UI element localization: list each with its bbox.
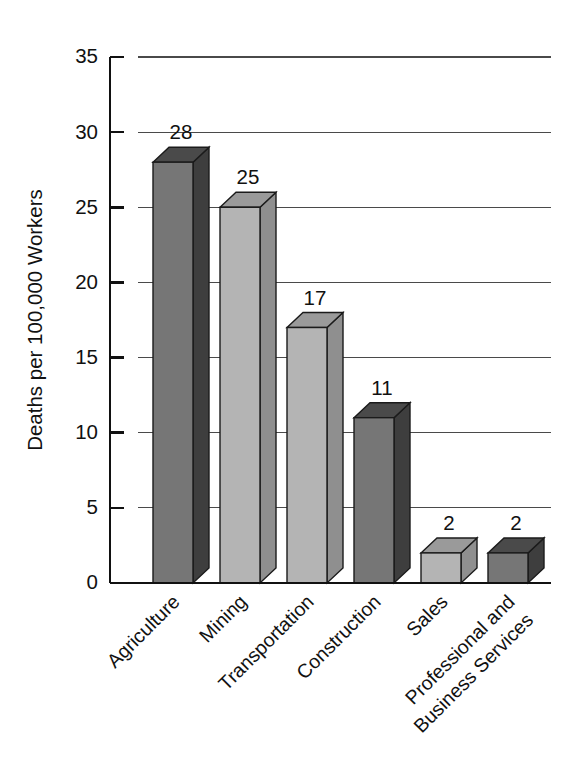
bar-3 — [287, 313, 343, 583]
bar-side-face — [394, 403, 410, 583]
y-axis-tick-label: 5 — [87, 495, 98, 518]
bar-value-label: 28 — [170, 120, 193, 143]
chart-figure: 05101520253035 2825171122 AgricultureMin… — [0, 0, 585, 781]
bar-front-face — [421, 553, 461, 583]
bar-front-face — [153, 162, 193, 583]
bar-side-face — [327, 313, 343, 583]
y-axis-title-text: Deaths per 100,000 Workers — [23, 189, 46, 451]
bar-value-label: 11 — [371, 376, 392, 399]
bar-4 — [354, 403, 410, 583]
bar-6 — [488, 538, 544, 583]
bar-5 — [421, 538, 477, 583]
y-axis-tick-label: 30 — [75, 120, 98, 143]
bar-front-face — [488, 553, 528, 583]
y-axis-tick-label: 15 — [75, 345, 98, 368]
y-axis-tick-label: 35 — [75, 44, 98, 67]
y-axis-title: Deaths per 100,000 Workers — [23, 189, 46, 451]
bar-value-label: 17 — [304, 286, 327, 309]
y-axis-tick-label: 0 — [87, 570, 98, 593]
bar-value-label: 25 — [237, 165, 260, 188]
y-axis-tick-label: 10 — [75, 420, 98, 443]
bar-side-face — [193, 147, 209, 583]
bar-value-label: 2 — [510, 511, 521, 534]
bar-front-face — [354, 418, 394, 583]
bar-chart-svg: 05101520253035 2825171122 AgricultureMin… — [0, 0, 585, 781]
bar-2 — [220, 192, 276, 583]
y-axis-tick-label: 20 — [75, 270, 98, 293]
bar-front-face — [287, 328, 327, 583]
bar-value-label: 2 — [443, 511, 454, 534]
bar-1 — [153, 147, 209, 583]
bar-side-face — [260, 192, 276, 583]
y-axis-tick-label: 25 — [75, 195, 98, 218]
bar-front-face — [220, 207, 260, 583]
